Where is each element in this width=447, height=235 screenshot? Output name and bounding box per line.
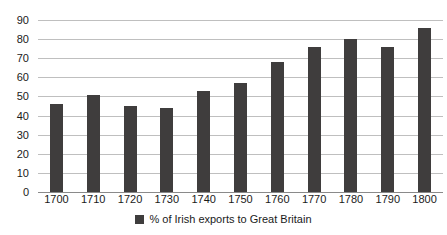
bar [381,47,394,192]
x-axis-tick-label: 1750 [228,194,252,205]
legend-label: % of Irish exports to Great Britain [149,214,311,225]
x-axis: 1700171017201730174017501760177017801790… [38,194,443,210]
bar [418,28,431,192]
x-axis-tick-label: 1730 [155,194,179,205]
x-axis-tick-label: 1720 [118,194,142,205]
x-axis-tick-label: 1740 [191,194,215,205]
y-axis-tick-label: 90 [17,15,29,26]
y-axis-tick-label: 20 [17,148,29,159]
x-axis-tick-label: 1760 [265,194,289,205]
bars-layer [38,20,443,192]
y-axis-tick-label: 10 [17,167,29,178]
y-axis-tick-label: 80 [17,34,29,45]
x-axis-tick-label: 1800 [412,194,436,205]
bar-chart: 0102030405060708090 17001710172017301740… [0,0,447,235]
chart-legend: % of Irish exports to Great Britain [0,214,447,225]
bar [124,106,137,192]
bar [160,108,173,192]
y-axis-tick-label: 50 [17,91,29,102]
y-axis: 0102030405060708090 [0,20,34,192]
bar [87,95,100,192]
y-axis-tick-label: 30 [17,129,29,140]
y-axis-tick-label: 40 [17,110,29,121]
legend-swatch-icon [135,215,144,224]
bar [271,62,284,192]
x-axis-tick-label: 1710 [81,194,105,205]
bar [344,39,357,192]
y-axis-tick-label: 0 [23,187,29,198]
bar [308,47,321,192]
x-axis-tick-label: 1790 [376,194,400,205]
x-axis-tick-label: 1770 [302,194,326,205]
y-axis-tick-label: 60 [17,72,29,83]
bar [50,104,63,192]
bar [197,91,210,192]
y-axis-tick-label: 70 [17,53,29,64]
x-axis-tick-label: 1780 [339,194,363,205]
x-axis-tick-label: 1700 [44,194,68,205]
bar [234,83,247,192]
